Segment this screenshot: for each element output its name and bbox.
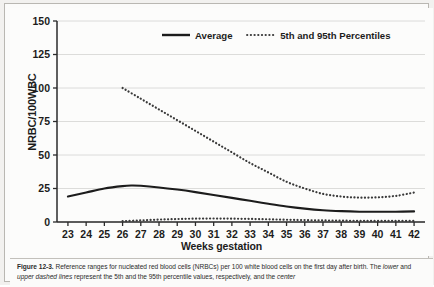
x-tick-label: 28: [153, 228, 165, 240]
caption-emphasis-upper-dashed-lines: upper dashed lines: [17, 273, 72, 280]
y-tick-label: 75: [38, 115, 50, 127]
x-tick-label: 24: [80, 228, 92, 240]
x-tick-label: 38: [335, 228, 347, 240]
x-tick-label: 37: [317, 228, 329, 240]
x-tick-label: 40: [372, 228, 384, 240]
y-axis-title: NRBC/100WBC: [26, 57, 38, 167]
x-axis-title: Weeks gestation: [10, 240, 433, 252]
legend-label: 5th and 95th Percentiles: [280, 30, 390, 41]
y-tick-label: 0: [44, 216, 50, 228]
figure-frame: 0255075100125150 23242526272829303132333…: [4, 3, 429, 282]
series-line: [123, 219, 414, 222]
x-tick-label: 39: [354, 228, 366, 240]
caption-emphasis-center: center: [277, 273, 295, 280]
x-tick-label: 42: [408, 228, 420, 240]
x-tick-label: 23: [62, 228, 74, 240]
x-tick-label: 31: [208, 228, 220, 240]
y-tick-label: 150: [32, 15, 50, 27]
x-tick-label: 35: [281, 228, 293, 240]
series-line: [123, 88, 414, 198]
y-tick-label: 25: [38, 182, 50, 194]
x-axis-ticks: 2324252627282930313233343536373839404142: [62, 222, 420, 240]
x-tick-label: 25: [99, 228, 111, 240]
x-tick-label: 27: [135, 228, 147, 240]
x-tick-label: 26: [117, 228, 129, 240]
chart-legend: Average5th and 95th Percentiles: [162, 30, 391, 41]
figure-caption: Figure 12-3. Reference ranges for nuclea…: [17, 262, 427, 281]
gridlines-group: [57, 21, 425, 222]
x-tick-label: 30: [190, 228, 202, 240]
x-tick-label: 41: [390, 228, 402, 240]
caption-text-2: and: [398, 263, 411, 270]
x-tick-label: 29: [171, 228, 183, 240]
x-tick-label: 33: [244, 228, 256, 240]
x-tick-label: 32: [226, 228, 238, 240]
caption-text-3: represent the 5th and the 95th percentil…: [72, 273, 277, 280]
caption-text-1: Reference ranges for nucleated red blood…: [54, 263, 383, 270]
x-tick-label: 34: [262, 228, 274, 240]
chart-plot: 0255075100125150 23242526272829303132333…: [10, 8, 433, 256]
caption-emphasis-lower: lower: [383, 263, 399, 270]
figure-caption-panel: Figure 12-3. Reference ranges for nuclea…: [10, 258, 433, 287]
legend-label: Average: [195, 30, 233, 41]
series-line: [68, 186, 414, 212]
x-tick-label: 36: [299, 228, 311, 240]
chart-panel: 0255075100125150 23242526272829303132333…: [10, 8, 433, 256]
caption-figure-number: Figure 12-3.: [17, 263, 54, 270]
y-tick-label: 50: [38, 149, 50, 161]
